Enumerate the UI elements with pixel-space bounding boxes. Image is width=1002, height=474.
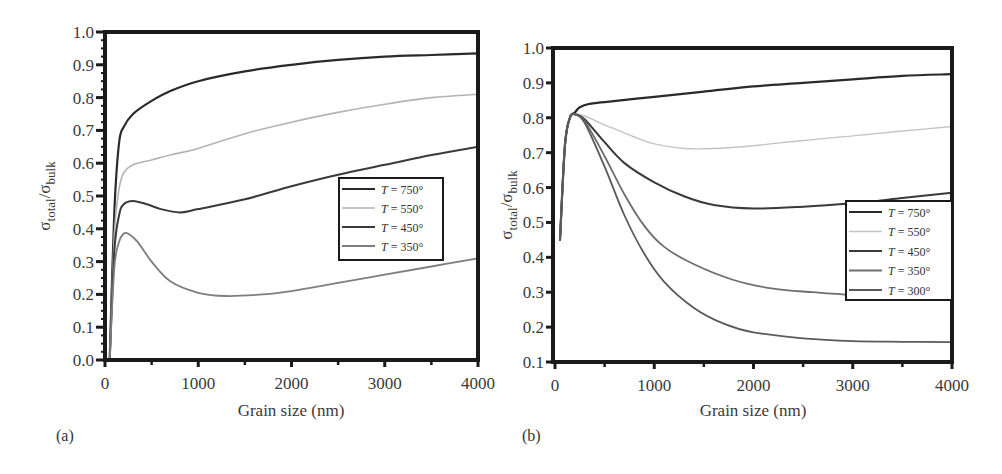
y-tick-label: 0.7 <box>73 121 95 140</box>
y-tick-label: 0.7 <box>523 144 545 163</box>
y-tick-label: 0.3 <box>73 253 94 272</box>
legend-entry: T = 300° <box>888 284 930 298</box>
chart-panel-a: 0.00.10.20.30.40.50.60.70.80.91.0 010002… <box>35 23 495 445</box>
legend-entry: T = 550° <box>381 202 423 216</box>
y-tick-label: 0.6 <box>73 154 94 173</box>
chart-a-y-axis-label: σtotal/σbulk <box>35 161 58 231</box>
legend-entry: T = 750° <box>888 206 930 220</box>
x-tick-label: 0 <box>101 374 110 393</box>
legend-entry: T = 450° <box>381 221 423 235</box>
x-tick-label: 2000 <box>737 376 771 395</box>
x-tick-label: 3000 <box>836 376 870 395</box>
y-tick-label: 1.0 <box>73 23 94 42</box>
y-tick-label: 0.3 <box>523 283 544 302</box>
y-tick-label: 0.2 <box>523 318 544 337</box>
y-tick-label: 0.8 <box>523 109 544 128</box>
chart-a-panel-label: (a) <box>56 427 74 445</box>
chart-a-x-ticks: 01000200030004000 <box>101 360 495 393</box>
x-tick-label: 4000 <box>461 374 495 393</box>
y-tick-label: 1.0 <box>523 39 544 58</box>
legend-entry: T = 750° <box>381 183 423 197</box>
legend-entry: T = 350° <box>381 240 423 254</box>
legend-entry: T = 550° <box>888 225 930 239</box>
x-tick-label: 3000 <box>368 374 402 393</box>
legend-entry: T = 450° <box>888 245 930 259</box>
x-tick-label: 0 <box>551 376 560 395</box>
y-tick-label: 0.1 <box>73 318 94 337</box>
x-tick-label: 1000 <box>181 374 215 393</box>
chart-a-x-axis-label: Grain size (nm) <box>238 401 345 420</box>
x-tick-label: 2000 <box>275 374 309 393</box>
chart-b-y-ticks: 0.10.20.30.40.50.60.70.80.91.0 <box>523 39 555 372</box>
y-tick-label: 0.9 <box>523 74 544 93</box>
x-tick-label: 4000 <box>935 376 969 395</box>
chart-b-y-axis-label: σtotal/σbulk <box>497 170 520 240</box>
y-tick-label: 0.5 <box>73 187 94 206</box>
chart-b-legend: T = 750°T = 550°T = 450°T = 350°T = 300° <box>846 201 952 300</box>
y-tick-label: 0.9 <box>73 56 94 75</box>
chart-a-legend: T = 750°T = 550°T = 450°T = 350° <box>339 178 443 260</box>
chart-a-y-ticks: 0.00.10.20.30.40.50.60.70.80.91.0 <box>73 23 105 370</box>
figure: 0.00.10.20.30.40.50.60.70.80.91.0 010002… <box>0 0 1002 474</box>
y-tick-label: 0.0 <box>73 351 94 370</box>
chart-b-x-axis-label: Grain size (nm) <box>700 401 807 420</box>
x-tick-label: 1000 <box>637 376 671 395</box>
legend-entry: T = 350° <box>888 264 930 278</box>
y-tick-label: 0.8 <box>73 89 94 108</box>
y-tick-label: 0.1 <box>523 353 544 372</box>
chart-panel-b: 0.10.20.30.40.50.60.70.80.91.0 010002000… <box>497 39 969 445</box>
chart-b-panel-label: (b) <box>522 427 541 445</box>
y-tick-label: 0.4 <box>523 248 545 267</box>
chart-b-x-ticks: 01000200030004000 <box>551 362 969 395</box>
y-tick-label: 0.6 <box>523 179 544 198</box>
y-tick-label: 0.2 <box>73 285 94 304</box>
y-tick-label: 0.4 <box>73 220 95 239</box>
y-tick-label: 0.5 <box>523 213 544 232</box>
